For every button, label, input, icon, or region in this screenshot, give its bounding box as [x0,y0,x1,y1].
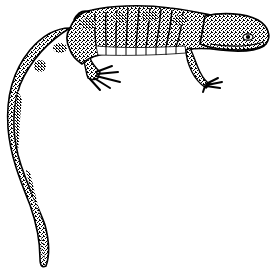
salamander-illustration: salamander [0,0,276,271]
belly [96,46,186,55]
eye [243,34,253,40]
front-leg [186,48,210,88]
salamander-drawing [0,0,276,271]
